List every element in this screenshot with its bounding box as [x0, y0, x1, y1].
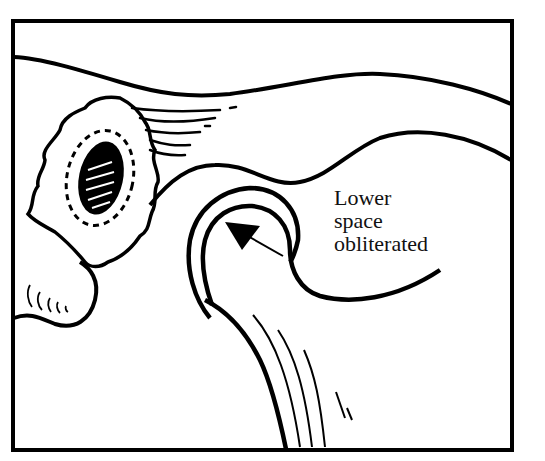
- label-line-1: Lower: [334, 186, 428, 209]
- fossa-contour: [150, 132, 511, 205]
- mastoid-hatching: [28, 285, 68, 313]
- arrow-head-icon: [225, 222, 260, 250]
- label-line-3: obliterated: [334, 232, 428, 255]
- condyle-neck: [205, 300, 286, 449]
- ear-canal-lumen: [72, 137, 130, 219]
- label-line-2: space: [334, 209, 428, 232]
- tmj-diagram: [0, 0, 545, 461]
- mastoid-lobe: [14, 262, 96, 326]
- arrow-shaft: [246, 235, 283, 256]
- ligament-striations: [132, 107, 236, 155]
- skull-contour: [14, 57, 511, 104]
- annotation-label: Lower space obliterated: [334, 186, 428, 255]
- frame-border: [13, 21, 512, 450]
